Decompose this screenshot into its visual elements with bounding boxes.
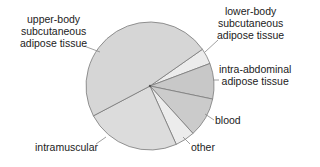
leader-line <box>205 40 218 52</box>
label-upper-body: upper-body subcutaneous adipose tissue <box>20 13 87 49</box>
label-other: other <box>191 141 215 153</box>
pie-center-dot <box>149 85 151 87</box>
pie-slices <box>86 22 214 150</box>
label-intra-abdominal: intra-abdominal adipose tissue <box>219 63 291 87</box>
label-blood: blood <box>215 114 241 126</box>
label-intramuscular: intramuscular <box>35 141 98 153</box>
label-lower-body: lower-body subcutaneous adipose tissue <box>217 5 284 41</box>
